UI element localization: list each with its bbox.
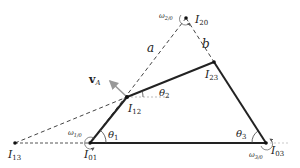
label-theta2: θ2 <box>159 87 170 100</box>
label-omega-3-0: ω3/0 <box>249 151 264 160</box>
label-I13: I13 <box>7 148 21 162</box>
label-I12: I12 <box>127 102 141 116</box>
velocity-vector-arrow <box>110 81 127 97</box>
point-I03 <box>264 141 268 145</box>
theta3-arc <box>252 131 258 143</box>
theta2-arc <box>142 91 143 97</box>
label-theta3: θ3 <box>236 128 247 141</box>
point-I13 <box>13 141 17 145</box>
label-velocity-vA: vA <box>88 73 100 87</box>
link-2 <box>127 62 214 97</box>
label-I01: I01 <box>83 148 97 162</box>
point-I01 <box>88 141 92 145</box>
label-line-a: a <box>147 41 154 55</box>
label-line-b: b <box>202 37 210 51</box>
label-omega-2-0: ω2/0 <box>159 12 174 21</box>
label-I23: I23 <box>204 68 218 82</box>
point-I12 <box>125 95 129 99</box>
label-I20: I20 <box>194 13 208 27</box>
point-I20 <box>184 16 188 20</box>
label-I03: I03 <box>270 144 284 158</box>
point-I23 <box>212 60 216 64</box>
theta1-arc <box>100 130 106 143</box>
label-theta1: θ1 <box>108 129 119 142</box>
four-bar-linkage-diagram: I01 I03 I12 I23 I20 I13 a b θ1 θ2 θ3 ω1/… <box>0 0 300 168</box>
label-omega-1-0: ω1/0 <box>68 129 83 138</box>
